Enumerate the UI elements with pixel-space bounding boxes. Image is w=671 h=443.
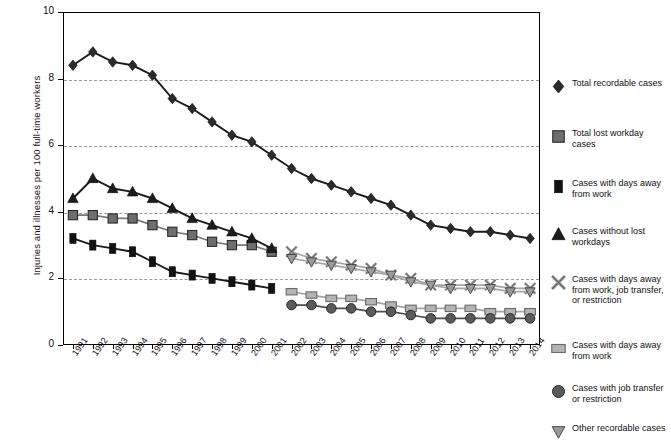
gridline (64, 279, 539, 280)
y-tick-mark (58, 145, 63, 146)
legend-label: Cases without lost workdays (572, 226, 667, 247)
y-tick-mark (58, 12, 63, 13)
y-tick-label: 6 (28, 138, 54, 149)
legend-label: Total recordable cases (572, 78, 667, 89)
rect-marker-icon (551, 341, 566, 356)
y-tick-mark (58, 79, 63, 80)
y-tick-label: 2 (28, 271, 54, 282)
y-tick-label: 8 (28, 72, 54, 83)
square-marker-icon (551, 129, 566, 144)
y-tick-mark (58, 345, 63, 346)
gridline (64, 146, 539, 147)
legend-item[interactable]: Other recordable cases (551, 423, 667, 439)
legend-item[interactable]: Cases with days away from work (551, 340, 667, 361)
legend-label: Cases with days away from work, job tran… (572, 274, 667, 306)
legend-label: Cases with job transfer or restriction (572, 383, 667, 404)
plot-area (63, 12, 540, 345)
legend-label: Other recordable cases (572, 423, 667, 434)
legend-label: Cases with days away from work (572, 340, 667, 361)
y-tick-label: 10 (28, 5, 54, 16)
y-tick-label: 4 (28, 205, 54, 216)
gridline (64, 213, 539, 214)
legend-item[interactable]: Cases without lost workdays (551, 226, 667, 247)
triangle-marker-icon (551, 227, 566, 242)
diamond-marker-icon (551, 79, 566, 94)
y-tick-mark (58, 212, 63, 213)
legend-label: Total lost workday cases (572, 128, 667, 149)
legend-item[interactable]: Cases with job transfer or restriction (551, 383, 667, 404)
legend-label: Cases with days away from work (572, 178, 667, 199)
legend-item[interactable]: Total lost workday cases (551, 128, 667, 149)
gridline (64, 80, 539, 81)
dtriangle-marker-icon (551, 424, 566, 439)
y-tick-mark (58, 278, 63, 279)
y-tick-label: 0 (28, 338, 54, 349)
legend-item[interactable]: Cases with days away from work, job tran… (551, 274, 667, 306)
circle-marker-icon (551, 384, 566, 399)
x-marker-icon (551, 275, 566, 290)
bar-marker-icon (551, 179, 566, 194)
legend-item[interactable]: Cases with days away from work (551, 178, 667, 199)
legend-item[interactable]: Total recordable cases (551, 78, 667, 94)
